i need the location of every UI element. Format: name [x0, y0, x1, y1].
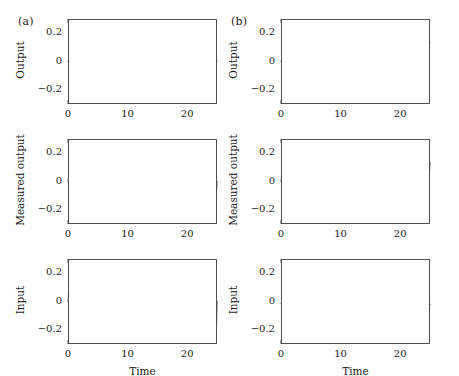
x-tick-label: 20 [167, 348, 207, 359]
y-axis-label-a-output: Output [14, 0, 26, 120]
y-tick-label: 0 [239, 175, 275, 186]
x-tick-label: 10 [321, 108, 361, 119]
y-tick-label: −0.2 [26, 203, 62, 214]
axes-frame-b-input [281, 259, 430, 344]
x-tick-label: 20 [380, 228, 420, 239]
y-tick-label: −0.2 [239, 203, 275, 214]
y-tick-label: 0 [239, 55, 275, 66]
y-tick-label: 0.2 [26, 26, 62, 37]
x-tick-label: 0 [48, 348, 88, 359]
y-tick-label: 0.2 [26, 266, 62, 277]
y-tick-label: 0.2 [239, 146, 275, 157]
y-tick-label: −0.2 [239, 83, 275, 94]
y-tick-label: 0.2 [26, 146, 62, 157]
x-tick-label: 20 [380, 348, 420, 359]
x-tick-label: 10 [321, 228, 361, 239]
y-tick-label: 0 [26, 55, 62, 66]
x-tick-label: 0 [48, 108, 88, 119]
x-tick-label: 10 [321, 348, 361, 359]
y-tick-label: −0.2 [239, 323, 275, 334]
axes-frame-b-measured_output [281, 139, 430, 224]
y-tick-label: 0.2 [239, 26, 275, 37]
y-tick-label: −0.2 [26, 323, 62, 334]
y-tick-label: 0 [26, 175, 62, 186]
x-tick-label: 20 [167, 228, 207, 239]
x-tick-label: 20 [380, 108, 420, 119]
y-axis-label-a-measured_output: Measured output [14, 120, 26, 240]
axes-frame-a-measured_output [68, 139, 217, 224]
y-tick-label: −0.2 [26, 83, 62, 94]
axes-frame-a-output [68, 19, 217, 104]
x-axis-label-a: Time [103, 365, 183, 376]
x-tick-label: 10 [108, 348, 148, 359]
y-axis-label-b-output: Output [227, 0, 239, 120]
x-tick-label: 10 [108, 108, 148, 119]
x-tick-label: 0 [261, 108, 301, 119]
figure-canvas: (a) (b) −0.200.201020Output−0.200.201020… [0, 0, 459, 376]
y-tick-label: 0 [26, 295, 62, 306]
x-tick-label: 0 [261, 348, 301, 359]
y-axis-label-b-measured_output: Measured output [227, 120, 239, 240]
x-tick-label: 10 [108, 228, 148, 239]
x-tick-label: 20 [167, 108, 207, 119]
axes-frame-b-output [281, 19, 430, 104]
x-tick-label: 0 [48, 228, 88, 239]
y-tick-label: 0 [239, 295, 275, 306]
axes-frame-a-input [68, 259, 217, 344]
x-axis-label-b: Time [316, 365, 396, 376]
y-tick-label: 0.2 [239, 266, 275, 277]
x-tick-label: 0 [261, 228, 301, 239]
y-axis-label-a-input: Input [14, 240, 26, 360]
y-axis-label-b-input: Input [227, 240, 239, 360]
